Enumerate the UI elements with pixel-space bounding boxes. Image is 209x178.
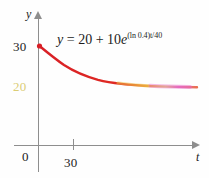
equation-coefficient: 10	[107, 32, 121, 47]
y-tick-label-30: 30	[13, 39, 27, 55]
equation-lhs: y	[57, 32, 63, 47]
decay-curve	[40, 46, 198, 87]
curve-tail-fringe	[150, 86, 190, 87]
exponential-decay-figure: 0 30 30 20 y t y = 20 + 10e(ln 0.4)t/40	[0, 0, 209, 178]
equation-constant: 20	[78, 32, 92, 47]
equation-equals: =	[67, 32, 75, 47]
plot-area	[0, 0, 209, 178]
equation-annotation: y = 20 + 10e(ln 0.4)t/40	[57, 31, 162, 48]
start-point-marker	[37, 43, 42, 48]
curve-mid-fringe	[118, 83, 148, 86]
y-axis-label: y	[26, 7, 31, 22]
equation-exponent: (ln 0.4)t/40	[127, 31, 162, 40]
x-tick-label-30: 30	[64, 155, 78, 171]
x-tick-label-0: 0	[22, 149, 29, 165]
x-axis-label: t	[196, 150, 199, 165]
y-tick-label-20: 20	[13, 79, 27, 95]
equation-plus: +	[96, 32, 104, 47]
